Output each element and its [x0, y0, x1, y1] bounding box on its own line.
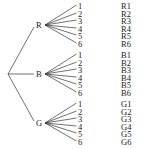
branch-label-r: R — [36, 20, 42, 30]
tree-edges — [8, 5, 77, 141]
branch-label-g: G — [36, 118, 42, 128]
root-edge — [8, 74, 34, 121]
leaf-edge — [45, 20, 77, 25]
leaf-label: 6 — [78, 137, 82, 147]
root-edge — [8, 27, 34, 74]
leaf-edge — [45, 118, 77, 123]
tree-diagram: R B G 1 2 3 4 5 6 1 2 3 4 5 6 1 2 3 4 5 … — [0, 0, 147, 149]
leaf-edge — [45, 69, 77, 74]
outcome-label: B6 — [121, 88, 131, 98]
leaf-label: 6 — [78, 39, 82, 49]
outcome-label: G6 — [121, 137, 131, 147]
leaf-label: 6 — [78, 88, 82, 98]
branch-label-b: B — [36, 69, 42, 79]
outcome-label: R6 — [121, 39, 131, 49]
